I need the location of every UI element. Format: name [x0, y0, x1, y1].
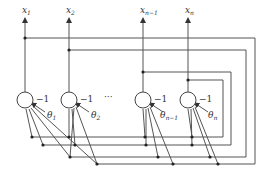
tap-dot-n — [186, 78, 189, 81]
hopfield-network-diagram: x1 x2 xn−1 xn — [0, 0, 268, 177]
input-line — [70, 108, 74, 157]
bus-dot — [68, 155, 71, 158]
bus-dots — [30, 135, 219, 165]
bus-dot — [30, 135, 33, 138]
threshold-label-n-1: θn−1 — [160, 110, 178, 121]
tap-dot-2 — [67, 48, 70, 51]
bus-dot — [95, 162, 98, 165]
tap-dots — [23, 36, 189, 81]
input-line — [143, 109, 145, 137]
neuron-2 — [61, 92, 77, 108]
output-lines — [25, 20, 188, 92]
output-label-n: xn — [185, 5, 194, 16]
threshold-arrow-n — [196, 104, 208, 112]
threshold-label-2: θ2 — [91, 110, 100, 121]
neuron-n-1 — [135, 92, 151, 108]
bus-dot — [144, 143, 147, 146]
bias-label-1: −1 — [36, 94, 49, 104]
output-label-2: x2 — [66, 5, 75, 16]
bias-label-2: −1 — [80, 94, 93, 104]
output-label-1: x1 — [22, 5, 31, 16]
input-line — [33, 106, 97, 164]
bus-dot — [190, 143, 193, 146]
neuron-n — [180, 92, 196, 108]
bus-dot — [73, 143, 76, 146]
bus-dot — [208, 155, 211, 158]
bus-dot — [156, 155, 159, 158]
tap-dot-1 — [23, 36, 26, 39]
bias-label-n-1: −1 — [154, 94, 167, 104]
bus-dot — [67, 135, 70, 138]
threshold-label-n: θn — [208, 110, 217, 121]
ellipsis: ··· — [104, 92, 113, 102]
bus-dot — [41, 143, 44, 146]
output-labels: x1 x2 xn−1 xn — [22, 5, 194, 16]
output-label-n-1: xn−1 — [140, 5, 158, 16]
input-line — [191, 109, 192, 145]
bias-label-n: −1 — [199, 94, 212, 104]
bus-dot — [216, 162, 219, 165]
feedback-loop-n — [32, 80, 223, 137]
bus-dot — [171, 162, 174, 165]
threshold-label-1: θ1 — [47, 110, 56, 121]
threshold-arrow-2 — [77, 104, 89, 112]
bus-dot — [143, 135, 146, 138]
tap-dot-n-1 — [141, 70, 144, 73]
bus-dot — [190, 135, 193, 138]
neuron-1 — [17, 92, 33, 108]
